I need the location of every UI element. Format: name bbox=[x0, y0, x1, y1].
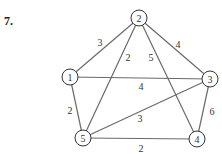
node-label: 4 bbox=[195, 134, 200, 145]
edge-1-3 bbox=[70, 77, 210, 79]
edge-weight-2-5: 2 bbox=[126, 52, 131, 63]
edge-1-2 bbox=[70, 18, 139, 77]
node-2: 2 bbox=[131, 10, 147, 26]
node-label: 1 bbox=[68, 72, 73, 83]
edge-weight-1-5: 2 bbox=[68, 105, 73, 116]
edge-weight-1-2: 3 bbox=[98, 37, 103, 48]
edge-5-4 bbox=[83, 138, 197, 139]
node-5: 5 bbox=[75, 130, 91, 146]
edge-weight-2-4: 5 bbox=[149, 52, 154, 63]
edge-2-3 bbox=[139, 18, 210, 79]
edge-weight-2-3: 4 bbox=[176, 39, 181, 50]
node-1: 1 bbox=[62, 69, 78, 85]
edge-5-3 bbox=[83, 79, 210, 138]
node-4: 4 bbox=[189, 131, 205, 147]
node-3: 3 bbox=[202, 71, 218, 87]
edge-weight-3-4: 6 bbox=[210, 106, 215, 117]
edge-weight-5-4: 2 bbox=[139, 143, 144, 154]
edge-weight-5-3: 3 bbox=[138, 113, 143, 124]
node-label: 2 bbox=[137, 13, 142, 24]
edge-3-4 bbox=[197, 79, 210, 139]
node-label: 5 bbox=[81, 133, 86, 144]
edge-weight-1-3: 4 bbox=[139, 81, 144, 92]
weighted-graph: 342542362 12345 bbox=[0, 0, 222, 154]
node-label: 3 bbox=[208, 74, 213, 85]
